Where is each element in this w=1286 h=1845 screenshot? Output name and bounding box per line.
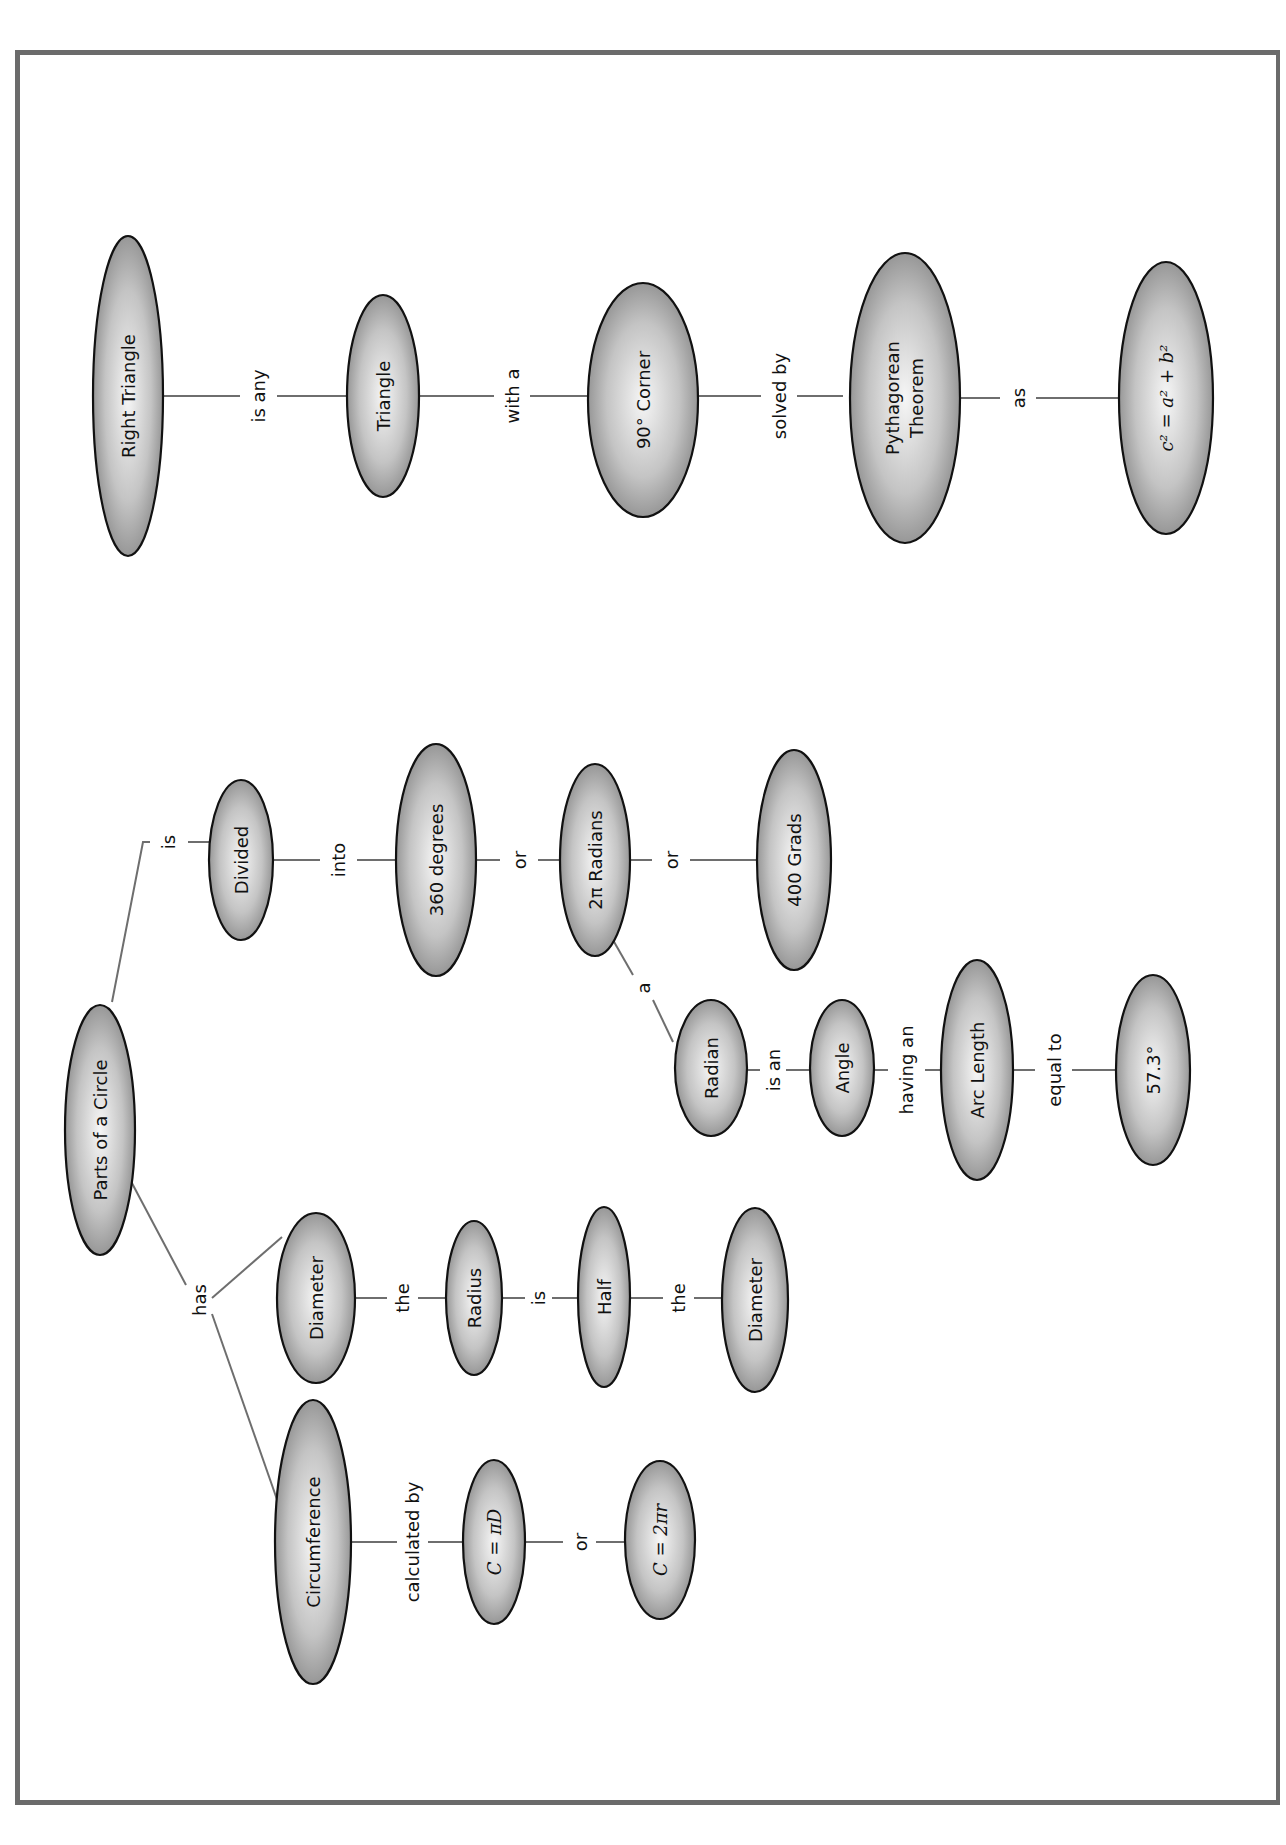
- node-c-equals-pi-d[interactable]: C = πD: [463, 1460, 525, 1624]
- node-angle[interactable]: Angle: [810, 1000, 874, 1136]
- node-400-grads[interactable]: 400 Grads: [757, 750, 831, 970]
- node-label: Radius: [464, 1268, 485, 1328]
- node-circumference[interactable]: Circumference: [275, 1400, 351, 1684]
- link-is-an: is an: [763, 1049, 784, 1092]
- node-label: Diameter: [745, 1257, 766, 1342]
- node-radius[interactable]: Radius: [446, 1221, 502, 1375]
- link-labels: has is calculated by or the is the into …: [158, 352, 1065, 1602]
- concept-map: Parts of a Circle Circumference Diameter…: [0, 0, 1286, 1845]
- node-label: Angle: [832, 1042, 853, 1093]
- node-arc-length[interactable]: Arc Length: [941, 960, 1013, 1180]
- node-label: 90° Corner: [633, 350, 654, 449]
- node-pythagorean-theorem[interactable]: Pythagorean Theorem: [850, 253, 960, 543]
- node-half[interactable]: Half: [578, 1207, 630, 1387]
- node-label: Parts of a Circle: [90, 1059, 111, 1200]
- node-label: 360 degrees: [426, 804, 447, 917]
- link-with-a: with a: [502, 369, 523, 424]
- node-360-degrees[interactable]: 360 degrees: [396, 744, 476, 976]
- link-or-2: or: [661, 850, 682, 869]
- node-parts-of-a-circle[interactable]: Parts of a Circle: [65, 1005, 135, 1255]
- link-the-2: the: [668, 1283, 689, 1313]
- link-a: a: [633, 982, 654, 993]
- link-having-an: having an: [896, 1025, 917, 1114]
- node-right-triangle[interactable]: Right Triangle: [93, 236, 163, 556]
- node-label-line-2: Theorem: [906, 358, 927, 439]
- node-label: Circumference: [303, 1476, 324, 1607]
- node-label: Diameter: [306, 1255, 327, 1340]
- node-label: 57.3°: [1143, 1045, 1164, 1094]
- node-label: c² = a² + b²: [1156, 344, 1177, 451]
- link-the-1: the: [392, 1283, 413, 1313]
- link-solved-by: solved by: [769, 352, 790, 439]
- node-triangle[interactable]: Triangle: [347, 295, 419, 497]
- link-equal-to: equal to: [1044, 1033, 1065, 1107]
- link-or-circumference: or: [570, 1532, 591, 1551]
- node-label: Half: [594, 1278, 615, 1315]
- node-label: Divided: [231, 826, 252, 894]
- node-label: 400 Grads: [784, 813, 805, 906]
- node-diameter[interactable]: Diameter: [277, 1213, 355, 1383]
- node-2-pi-radians[interactable]: 2π Radians: [560, 764, 630, 956]
- link-or-1: or: [509, 850, 530, 869]
- node-pythagorean-formula[interactable]: c² = a² + b²: [1119, 262, 1213, 534]
- node-c-equals-2-pi-r[interactable]: C = 2πr: [625, 1461, 695, 1619]
- node-57-3-degrees[interactable]: 57.3°: [1116, 975, 1190, 1165]
- node-label: Triangle: [373, 361, 394, 433]
- node-label-line-1: Pythagorean: [882, 341, 903, 455]
- link-is-any: is any: [248, 369, 269, 423]
- link-calculated-by: calculated by: [402, 1481, 423, 1602]
- node-divided[interactable]: Divided: [209, 780, 273, 940]
- node-label: Arc Length: [967, 1021, 988, 1118]
- node-label: Radian: [701, 1037, 722, 1099]
- node-label: C = 2πr: [650, 1503, 671, 1577]
- link-is-divided: is: [158, 835, 179, 849]
- link-has: has: [189, 1284, 210, 1316]
- node-radian[interactable]: Radian: [675, 1000, 747, 1136]
- link-as: as: [1008, 388, 1029, 408]
- node-label: C = πD: [484, 1508, 505, 1575]
- node-90-degree-corner[interactable]: 90° Corner: [588, 283, 698, 517]
- link-into: into: [328, 843, 349, 877]
- node-diameter-2[interactable]: Diameter: [722, 1208, 788, 1392]
- node-label: 2π Radians: [585, 810, 606, 909]
- link-is-half: is: [528, 1291, 549, 1305]
- node-label: Right Triangle: [118, 334, 139, 458]
